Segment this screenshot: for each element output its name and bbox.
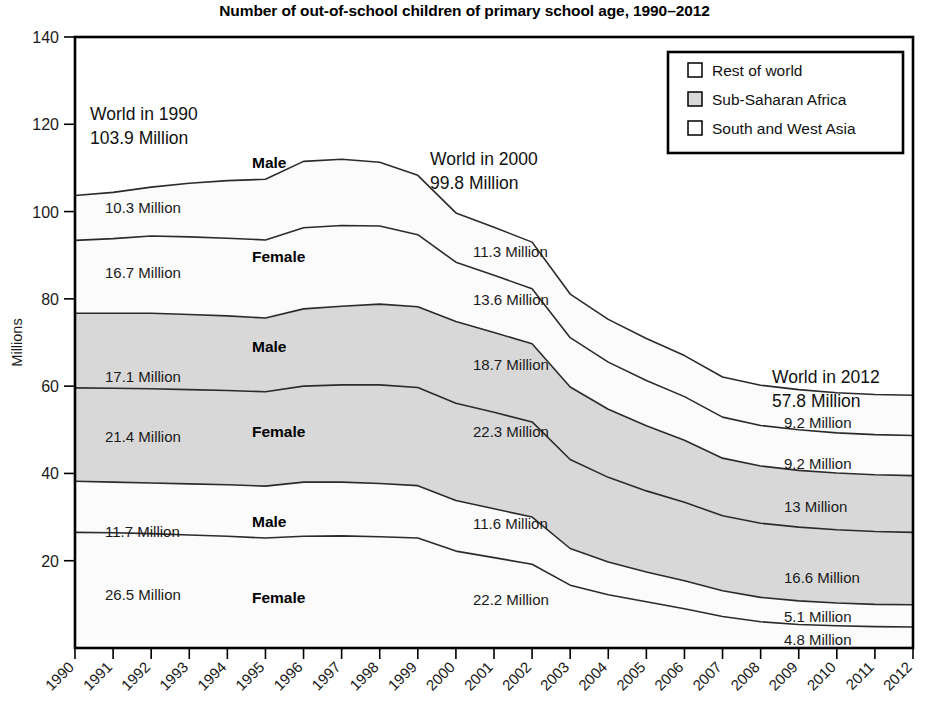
legend-swatch <box>688 92 702 106</box>
annotation-sex-label: Female <box>252 423 306 440</box>
y-tick-label: 20 <box>41 553 59 570</box>
y-tick-label: 120 <box>32 116 59 133</box>
annotation-left-value: 16.7 Million <box>105 264 181 281</box>
annotation-sex-label: Male <box>252 338 287 355</box>
x-tick-label: 2010 <box>803 658 839 694</box>
x-tick-label: 1991 <box>80 658 116 694</box>
annotation-sex-label: Male <box>252 513 287 530</box>
annotation-middle-value: 22.2 Million <box>473 591 549 608</box>
x-tick-label: 2005 <box>613 658 649 694</box>
annotation-world-1990-title: World in 1990 <box>90 104 198 124</box>
x-tick-label: 2001 <box>461 658 497 694</box>
annotation-left-value: 21.4 Million <box>105 428 181 445</box>
annotation-middle-value: 11.6 Million <box>473 515 548 532</box>
annotation-sex-label: Female <box>252 589 306 606</box>
x-tick-label: 1996 <box>270 658 306 694</box>
x-tick-label: 2006 <box>651 658 687 694</box>
x-tick-label: 2008 <box>727 658 763 694</box>
x-tick-label: 2002 <box>499 658 535 694</box>
annotation-left-value: 11.7 Million <box>105 523 180 540</box>
y-axis-title: Millions <box>9 318 25 366</box>
annotation-middle-value: 13.6 Million <box>473 291 549 308</box>
x-tick-label: 1992 <box>118 658 154 694</box>
y-tick-label: 40 <box>41 465 59 482</box>
annotation-world-2012-title: World in 2012 <box>772 367 880 387</box>
annotation-right-value: 9.2 Million <box>784 414 852 431</box>
chart-legend: Rest of worldSub-Saharan AfricaSouth and… <box>668 52 903 153</box>
x-tick-label: 2000 <box>422 658 458 694</box>
annotation-world-2000-value: 99.8 Million <box>430 173 519 193</box>
annotation-middle-value: 22.3 Million <box>473 423 549 440</box>
y-tick-label: 140 <box>32 29 59 46</box>
annotation-middle-value: 11.3 Million <box>473 243 548 260</box>
annotation-left-value: 10.3 Million <box>105 199 181 216</box>
annotation-right-value: 9.2 Million <box>784 455 852 472</box>
x-tick-label: 2012 <box>880 658 916 694</box>
chart-container: Number of out-of-school children of prim… <box>0 0 929 713</box>
annotation-right-value: 4.8 Million <box>784 631 852 648</box>
x-tick-label: 1997 <box>308 658 344 694</box>
annotation-world-1990-value: 103.9 Million <box>90 128 188 148</box>
x-tick-label: 1990 <box>42 658 78 694</box>
legend-label: Rest of world <box>712 62 802 79</box>
legend-swatch <box>688 63 702 77</box>
x-tick-label: 2011 <box>842 658 877 693</box>
x-tick-label: 1999 <box>384 658 420 694</box>
annotation-world-2000-title: World in 2000 <box>430 149 538 169</box>
annotation-right-value: 13 Million <box>784 498 847 515</box>
legend-label: South and West Asia <box>712 120 856 137</box>
legend-swatch <box>688 121 702 135</box>
legend-label: Sub-Saharan Africa <box>712 91 847 108</box>
annotation-left-value: 26.5 Million <box>105 586 181 603</box>
stacked-area-chart: 20406080100120140Millions199019911992199… <box>0 0 929 713</box>
y-tick-label: 80 <box>41 291 59 308</box>
x-tick-label: 2004 <box>575 658 611 694</box>
x-tick-label: 1994 <box>194 658 230 694</box>
x-tick-label: 1993 <box>156 658 192 694</box>
x-tick-label: 2007 <box>689 658 725 694</box>
x-tick-label: 2003 <box>537 658 573 694</box>
x-tick-label: 1995 <box>232 658 268 694</box>
annotation-right-value: 16.6 Million <box>784 569 860 586</box>
y-tick-label: 100 <box>32 204 59 221</box>
x-tick-label: 2009 <box>765 658 801 694</box>
annotation-sex-label: Female <box>252 248 306 265</box>
annotation-sex-label: Male <box>252 154 287 171</box>
annotation-middle-value: 18.7 Million <box>473 356 549 373</box>
annotation-right-value: 5.1 Million <box>784 608 852 625</box>
annotation-left-value: 17.1 Million <box>105 368 181 385</box>
x-tick-label: 1998 <box>346 658 382 694</box>
y-tick-label: 60 <box>41 378 59 395</box>
annotation-world-2012-value: 57.8 Million <box>772 391 861 411</box>
